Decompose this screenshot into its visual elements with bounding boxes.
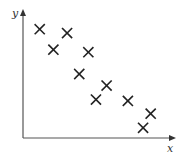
data-point-x-marker-icon (63, 29, 72, 38)
data-point-x-marker-icon (35, 25, 44, 34)
data-points (35, 25, 155, 133)
y-axis-label: y (11, 7, 19, 20)
data-point-x-marker-icon (123, 96, 132, 105)
data-point-x-marker-icon (102, 81, 111, 90)
scatter-chart: y x (0, 0, 180, 157)
data-point-x-marker-icon (139, 123, 148, 132)
data-point-x-marker-icon (75, 70, 84, 79)
x-axis-arrow-icon (169, 135, 176, 141)
x-axis: x (23, 135, 176, 155)
data-point-x-marker-icon (146, 109, 155, 118)
y-axis-arrow-icon (20, 9, 26, 16)
data-point-x-marker-icon (84, 48, 93, 57)
data-point-x-marker-icon (91, 95, 100, 104)
data-point-x-marker-icon (49, 45, 58, 54)
x-axis-label: x (167, 142, 174, 155)
y-axis: y (11, 7, 26, 138)
